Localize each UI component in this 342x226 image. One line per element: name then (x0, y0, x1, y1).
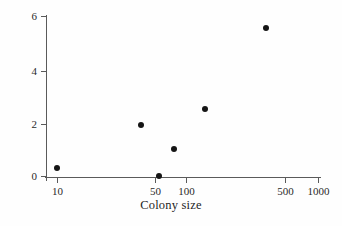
x-axis-tick: 10 (57, 178, 58, 183)
data-point (138, 122, 144, 128)
x-axis-tick: 1000 (318, 178, 319, 183)
y-axis-tick: 4 (41, 71, 46, 72)
data-point (54, 165, 60, 171)
x-axis-tick-label: 50 (150, 186, 161, 197)
x-axis-tick-label: 500 (277, 186, 294, 197)
x-axis-tick: 50 (155, 178, 156, 183)
x-axis-tick-label: 1000 (308, 186, 330, 197)
y-axis-tick-label: 0 (32, 171, 38, 182)
data-point (156, 173, 162, 179)
y-axis-tick-label: 4 (32, 66, 38, 77)
y-axis-tick-label: 2 (32, 119, 38, 130)
scatter-plot-figure: 0246 10501005001000 Swallow bugs per nes… (0, 0, 342, 226)
data-point (202, 106, 208, 112)
x-axis-tick-label: 100 (178, 186, 195, 197)
y-axis-tick: 0 (41, 176, 46, 177)
x-axis-tick: 100 (186, 178, 187, 183)
data-point (171, 146, 177, 152)
data-point (263, 25, 269, 31)
x-axis-line (45, 177, 321, 178)
x-axis-title: Colony size (0, 198, 342, 213)
y-axis-tick: 6 (41, 16, 46, 17)
y-axis-tick: 2 (41, 124, 46, 125)
y-axis-line (46, 15, 47, 181)
x-axis-tick: 500 (285, 178, 286, 183)
y-axis-tick-label: 6 (32, 11, 38, 22)
x-axis-tick-label: 10 (52, 186, 63, 197)
